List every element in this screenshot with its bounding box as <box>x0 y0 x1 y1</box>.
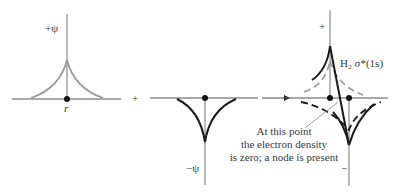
annotation-line-1: At this point <box>222 125 346 138</box>
minus-psi-label: −ψ <box>186 162 199 174</box>
plus-operator: + <box>132 92 138 104</box>
plus-psi-label: +ψ <box>45 22 58 34</box>
panel-atom-a <box>12 14 121 102</box>
orbital-diagram: +ψ r + −ψ + − H₂ σ*(1s) At this point th… <box>0 0 404 196</box>
annotation-line-3: is zero; a node is present <box>222 151 346 164</box>
plus-label: + <box>319 20 325 32</box>
annotation-line-2: the electron density <box>222 138 346 151</box>
orbital-label: H₂ σ*(1s) <box>340 57 383 69</box>
r-label: r <box>64 102 68 114</box>
node-annotation: At this point the electron density is ze… <box>222 125 346 164</box>
